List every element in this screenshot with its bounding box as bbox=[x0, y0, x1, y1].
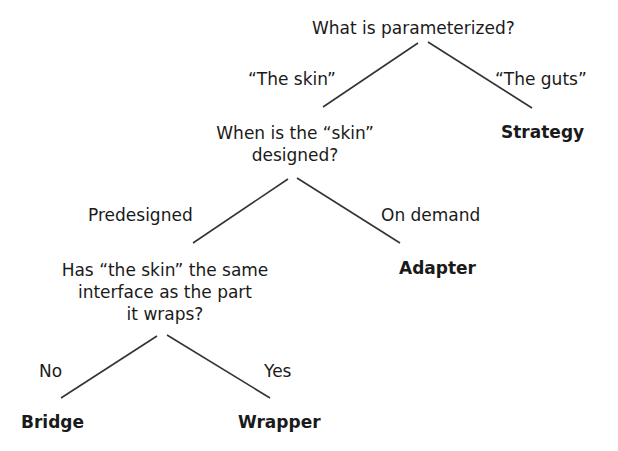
level3-question-line2: interface as the part bbox=[30, 281, 300, 303]
edge-label-yes: Yes bbox=[264, 360, 291, 382]
leaf-bridge: Bridge bbox=[21, 411, 84, 433]
edge-yes bbox=[167, 335, 270, 398]
edge-no bbox=[61, 336, 157, 398]
leaf-wrapper: Wrapper bbox=[238, 411, 321, 433]
level3-question: Has “the skin” the same interface as the… bbox=[30, 259, 300, 325]
edge-label-predesigned: Predesigned bbox=[88, 204, 193, 226]
level3-question-line1: Has “the skin” the same bbox=[30, 259, 300, 281]
leaf-adapter: Adapter bbox=[399, 257, 476, 279]
level2-question-line2: designed? bbox=[200, 144, 390, 166]
level2-question: When is the “skin” designed? bbox=[200, 122, 390, 166]
edge-label-skin: “The skin” bbox=[248, 68, 336, 90]
edge-label-no: No bbox=[39, 360, 62, 382]
edge-skin bbox=[323, 43, 418, 107]
level2-question-line1: When is the “skin” bbox=[200, 122, 390, 144]
edge-label-on-demand: On demand bbox=[381, 204, 480, 226]
root-question: What is parameterized? bbox=[312, 17, 515, 39]
edge-predesigned bbox=[193, 179, 288, 243]
level3-question-line3: it wraps? bbox=[30, 303, 300, 325]
leaf-strategy: Strategy bbox=[501, 121, 584, 143]
edge-label-guts: “The guts” bbox=[495, 68, 587, 90]
